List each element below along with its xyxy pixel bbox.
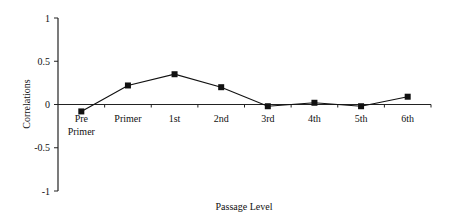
x-tick-label: 2nd — [214, 113, 229, 124]
x-tick-label: 6th — [401, 113, 414, 124]
data-point-marker — [405, 94, 411, 100]
x-tick-label: Primer — [68, 126, 96, 137]
y-tick-label: 1 — [45, 13, 50, 24]
y-tick-label: -0.5 — [34, 142, 50, 153]
data-point-marker — [358, 103, 364, 109]
data-point-marker — [125, 82, 131, 88]
y-tick-label: 0.5 — [38, 56, 51, 67]
x-tick-label: 5th — [355, 113, 368, 124]
x-axis: PrePrimerPrimer1st2nd3rd4th5th6th — [58, 105, 431, 137]
data-point-marker — [311, 100, 317, 106]
y-tick-label: -1 — [42, 186, 50, 197]
x-tick-label: 4th — [308, 113, 321, 124]
x-axis-title: Passage Level — [216, 201, 273, 212]
data-point-marker — [218, 84, 224, 90]
x-tick-label: 1st — [169, 113, 181, 124]
y-axis-title: Correlations — [21, 79, 32, 129]
x-tick-label: Primer — [114, 113, 142, 124]
x-tick-label: 3rd — [261, 113, 274, 124]
y-tick-label: 0 — [45, 99, 50, 110]
line-chart: 10.50-0.5-1 PrePrimerPrimer1st2nd3rd4th5… — [0, 0, 449, 215]
data-point-marker — [78, 108, 84, 114]
data-point-marker — [172, 71, 178, 77]
y-axis: 10.50-0.5-1 — [34, 13, 58, 197]
data-point-marker — [265, 103, 271, 109]
data-series — [78, 71, 410, 114]
